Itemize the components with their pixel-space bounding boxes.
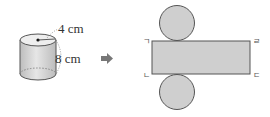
corner-label-top-left: ㄱ [143,37,150,46]
height-label: 8 cm [55,51,81,66]
right-arrow-icon [101,53,113,64]
corner-label-bottom-left: ㄴ [143,71,150,80]
cylinder-net [152,6,250,110]
net-top-circle [160,6,195,41]
net-rectangle [152,41,250,74]
corner-label-bottom-right: ㄷ [253,71,260,80]
cylinder-net-diagram: 4 cm 8 cm ㄱ ㄴ ㄹ ㄷ [0,0,270,117]
corner-label-top-right: ㄹ [253,37,260,46]
radius-label: 4 cm [58,21,84,36]
net-bottom-circle [160,75,195,110]
